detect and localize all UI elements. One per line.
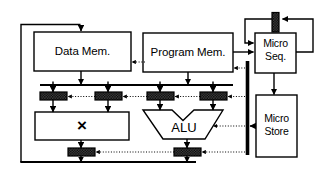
register-alu-a xyxy=(147,92,174,100)
diagram-canvas xyxy=(0,0,322,176)
register-mult-out xyxy=(68,148,95,156)
micro-sequencer-block xyxy=(255,33,296,73)
register-alu-out xyxy=(174,148,201,156)
micro-store-block xyxy=(256,95,297,157)
data-memory-block xyxy=(34,32,131,71)
register-mult-a xyxy=(40,92,67,100)
register-mult-b xyxy=(95,92,122,100)
alu-block xyxy=(143,110,223,139)
processor-datapath-diagram: Data Mem. Program Mem. Micro Seq. Micro … xyxy=(0,0,322,176)
register-micro-pc xyxy=(272,13,279,33)
register-alu-b xyxy=(200,92,227,100)
program-memory-block xyxy=(143,33,233,72)
multiplier-block xyxy=(35,112,129,140)
